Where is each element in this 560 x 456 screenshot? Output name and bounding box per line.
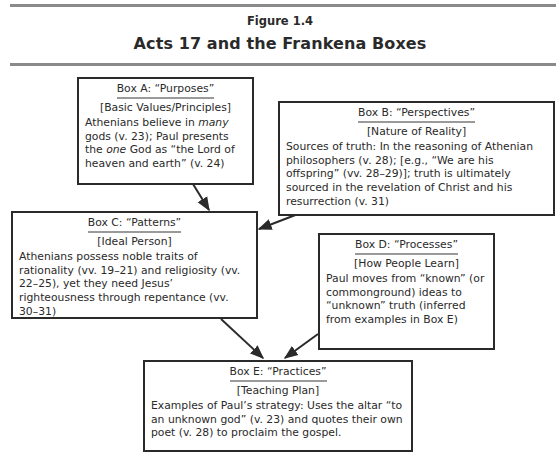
figure-label: Figure 1.4	[0, 14, 560, 28]
box-e-practices: Box E: “Practices” [Teaching Plan] Examp…	[143, 360, 413, 452]
box-c-body: Athenians possess noble traits of ration…	[19, 250, 250, 318]
box-c-heading: Box C: “Patterns”	[88, 216, 181, 233]
box-e-body: Examples of Paul’s strategy: Uses the al…	[151, 399, 405, 440]
arrow-c-to-e	[221, 319, 263, 358]
box-b-perspectives: Box B: “Perspectives” [Nature of Reality…	[278, 101, 555, 216]
box-d-body: Paul moves from “known” (or commonground…	[326, 272, 487, 326]
box-d-processes: Box D: “Processes” [How People Learn] Pa…	[318, 233, 495, 350]
figure-title: Acts 17 and the Frankena Boxes	[0, 34, 560, 53]
arrow-d-to-e	[285, 334, 318, 358]
box-b-body: Sources of truth: In the reasoning of At…	[286, 140, 547, 208]
arrow-a-to-c	[193, 184, 209, 210]
box-e-heading: Box E: “Practices”	[230, 365, 327, 382]
box-d-heading: Box D: “Processes”	[355, 238, 458, 255]
box-a-body: Athenians believe in many gods (v. 23); …	[85, 116, 246, 170]
arrow-b-to-c	[259, 214, 298, 229]
box-c-subheading: [Ideal Person]	[19, 235, 250, 249]
top-rule	[10, 4, 556, 7]
box-d-subheading: [How People Learn]	[326, 257, 487, 271]
box-c-patterns: Box C: “Patterns” [Ideal Person] Athenia…	[11, 211, 258, 319]
bottom-rule	[10, 63, 556, 66]
box-a-subheading: [Basic Values/Principles]	[85, 101, 246, 115]
box-a-purposes: Box A: “Purposes” [Basic Values/Principl…	[77, 77, 254, 185]
box-e-subheading: [Teaching Plan]	[151, 384, 405, 398]
box-b-subheading: [Nature of Reality]	[286, 125, 547, 139]
box-b-heading: Box B: “Perspectives”	[358, 106, 475, 123]
box-a-heading: Box A: “Purposes”	[117, 82, 215, 99]
